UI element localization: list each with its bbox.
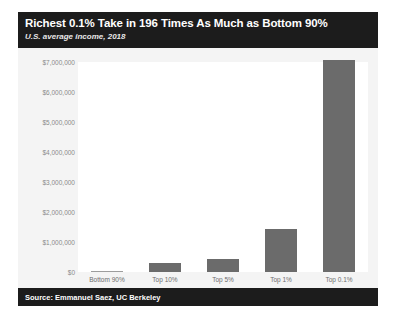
x-axis-tick-labels: Bottom 90%Top 10%Top 5%Top 1%Top 0.1%: [18, 48, 378, 288]
chart-subtitle: U.S. average income, 2018: [25, 31, 378, 42]
x-axis-tick-label: Top 1%: [252, 276, 310, 284]
page-title: Richest 0.1% Take in 196 Times As Much a…: [25, 16, 378, 30]
x-axis-tick-label: Top 10%: [136, 276, 194, 284]
x-axis-tick-label: Bottom 90%: [78, 276, 136, 284]
source-note: Source: Emmanuel Saez, UC Berkeley: [25, 293, 160, 302]
chart-header-band: Richest 0.1% Take in 196 Times As Much a…: [18, 12, 378, 48]
chart-figure: Richest 0.1% Take in 196 Times As Much a…: [18, 12, 378, 306]
plot-canvas: $0$1,000,000$2,000,000$3,000,000$4,000,0…: [18, 48, 378, 288]
x-axis-tick-label: Top 0.1%: [310, 276, 368, 284]
x-axis-tick-label: Top 5%: [194, 276, 252, 284]
chart-footer-band: Source: Emmanuel Saez, UC Berkeley: [18, 288, 378, 306]
